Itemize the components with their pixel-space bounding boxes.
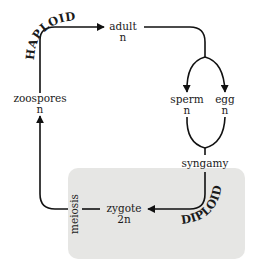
adult-ploidy: n	[120, 31, 127, 43]
egg-ploidy: n	[222, 104, 229, 116]
edge-meiosis-zoospores	[40, 116, 68, 209]
edge-zoospores-adult	[40, 27, 104, 93]
sperm-ploidy: n	[184, 104, 191, 116]
edge-adult-split	[144, 27, 205, 57]
edge-sperm-join	[187, 117, 205, 148]
life-cycle-diagram: adult n sperm n egg n syngamy zygote 2n …	[0, 0, 256, 266]
zoospores-ploidy: n	[37, 103, 44, 115]
edge-to-sperm	[187, 57, 205, 92]
edge-egg-join	[205, 117, 225, 148]
syngamy-label: syngamy	[182, 157, 229, 169]
meiosis-label: meiosis	[68, 194, 80, 234]
haploid-phase-label: HAPLOID	[23, 9, 77, 60]
edge-to-egg	[205, 57, 225, 92]
diploid-region	[68, 168, 245, 259]
zygote-ploidy: 2n	[117, 213, 131, 225]
